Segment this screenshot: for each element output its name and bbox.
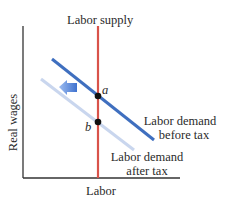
label-line: before tax (143, 128, 217, 142)
label-line: after tax (110, 164, 184, 178)
point-a-label: a (102, 83, 108, 97)
labor-demand-after-tax-label: Labor demand after tax (110, 150, 184, 178)
labor-market-diagram: Labor supply a b Labor demand before tax… (0, 0, 225, 203)
y-axis-label: Real wages (6, 88, 21, 158)
labor-supply-label: Labor supply (67, 13, 133, 27)
left-shift-arrow-icon (59, 80, 77, 95)
x-axis-label: Labor (86, 184, 116, 198)
point-b (95, 119, 102, 126)
point-a (95, 93, 102, 100)
label-line: Labor demand (110, 150, 184, 164)
point-b-label: b (85, 120, 91, 134)
label-line: Labor demand (143, 114, 217, 128)
labor-demand-before-tax-label: Labor demand before tax (143, 114, 217, 142)
